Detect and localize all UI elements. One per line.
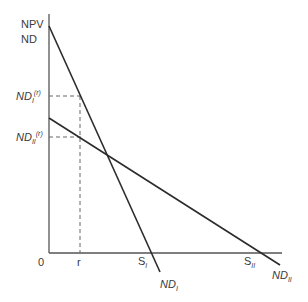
- ndII-end-base: ND: [272, 269, 288, 281]
- ndII-end-label: NDII: [272, 270, 292, 283]
- y-axis-label-nd: ND: [21, 34, 37, 45]
- ndI-r-label: NDI(r): [16, 89, 41, 104]
- ndII-end-sub: II: [288, 276, 292, 283]
- ndI-end-sub: I: [176, 285, 178, 292]
- ndI-r-sup: (r): [34, 89, 41, 96]
- y-axis-label-npv: NPV: [21, 19, 44, 30]
- ndII-r-sup: (r): [36, 130, 43, 137]
- ndII-r-sub: II: [32, 138, 36, 145]
- npv-diagram-canvas: [0, 0, 308, 302]
- s2-sub: II: [251, 262, 255, 269]
- ndI-end-label: NDI: [160, 279, 178, 292]
- s1-label: SI: [138, 256, 147, 269]
- origin-label: 0: [38, 257, 44, 268]
- r-tick-label: r: [77, 257, 81, 268]
- s1-sub: I: [145, 262, 147, 269]
- ndI-line: [49, 26, 160, 272]
- s2-label: SII: [244, 256, 255, 269]
- ndII-line: [49, 118, 280, 265]
- ndII-r-base: ND: [16, 131, 32, 143]
- ndI-end-base: ND: [160, 278, 176, 290]
- ndI-r-sub: I: [32, 97, 34, 104]
- ndI-r-base: ND: [16, 90, 32, 102]
- ndII-r-label: NDII(r): [16, 130, 43, 145]
